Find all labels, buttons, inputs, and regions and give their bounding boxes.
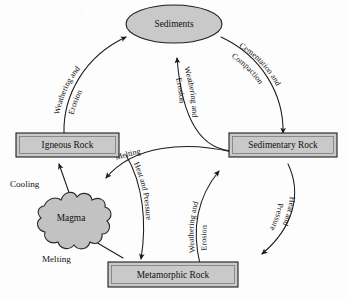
edge-heat-and-pressure-center: Heat and Pressure xyxy=(126,155,153,259)
edge-label-cooling: Cooling xyxy=(10,179,40,189)
edge-sediments-to-sedimentary: Cementation and Compaction xyxy=(221,37,283,133)
edge-magma-to-igneous: Cooling xyxy=(10,164,72,201)
node-magma-label: Magma xyxy=(57,213,86,223)
edge-label-melting-lower-left: Melting xyxy=(42,254,71,264)
diagram-canvas: Weathering and Erosion Cementation and C… xyxy=(0,0,347,300)
node-igneous-rock-label: Igneous Rock xyxy=(42,140,94,150)
edge-igneous-to-sediments: Weathering and Erosion xyxy=(53,37,126,133)
node-metamorphic-rock-label: Metamorphic Rock xyxy=(137,270,210,280)
node-sediments[interactable]: Sediments xyxy=(126,5,222,43)
node-metamorphic-rock[interactable]: Metamorphic Rock xyxy=(108,262,238,287)
edge-label-erosion-right-line2: Erosion xyxy=(199,225,209,251)
node-igneous-rock[interactable]: Igneous Rock xyxy=(16,133,119,157)
edge-label-weathering-right-line1: Weathering and xyxy=(187,200,201,253)
node-sediments-label: Sediments xyxy=(154,19,193,29)
node-sedimentary-rock[interactable]: Sedimentary Rock xyxy=(229,133,337,157)
edge-label-pressure-right: Pressure xyxy=(268,203,285,233)
edge-sedimentary-to-magma: Melting xyxy=(106,147,232,178)
edge-label-erosion-center-line2: Erosion xyxy=(174,77,187,104)
edge-metamorphic-to-sedimentary: Weathering and Erosion xyxy=(187,171,219,264)
node-magma[interactable]: Magma xyxy=(38,192,111,248)
rock-cycle-diagram: Weathering and Erosion Cementation and C… xyxy=(0,0,347,300)
edge-label-weathering-erosion-left-line2: Erosion xyxy=(67,88,84,115)
node-sedimentary-rock-label: Sedimentary Rock xyxy=(248,140,318,150)
edge-sedimentary-to-metamorphic: Heat and Pressure xyxy=(262,164,297,254)
edge-sedimentary-to-sediments: Weathering and Erosion xyxy=(174,58,237,151)
